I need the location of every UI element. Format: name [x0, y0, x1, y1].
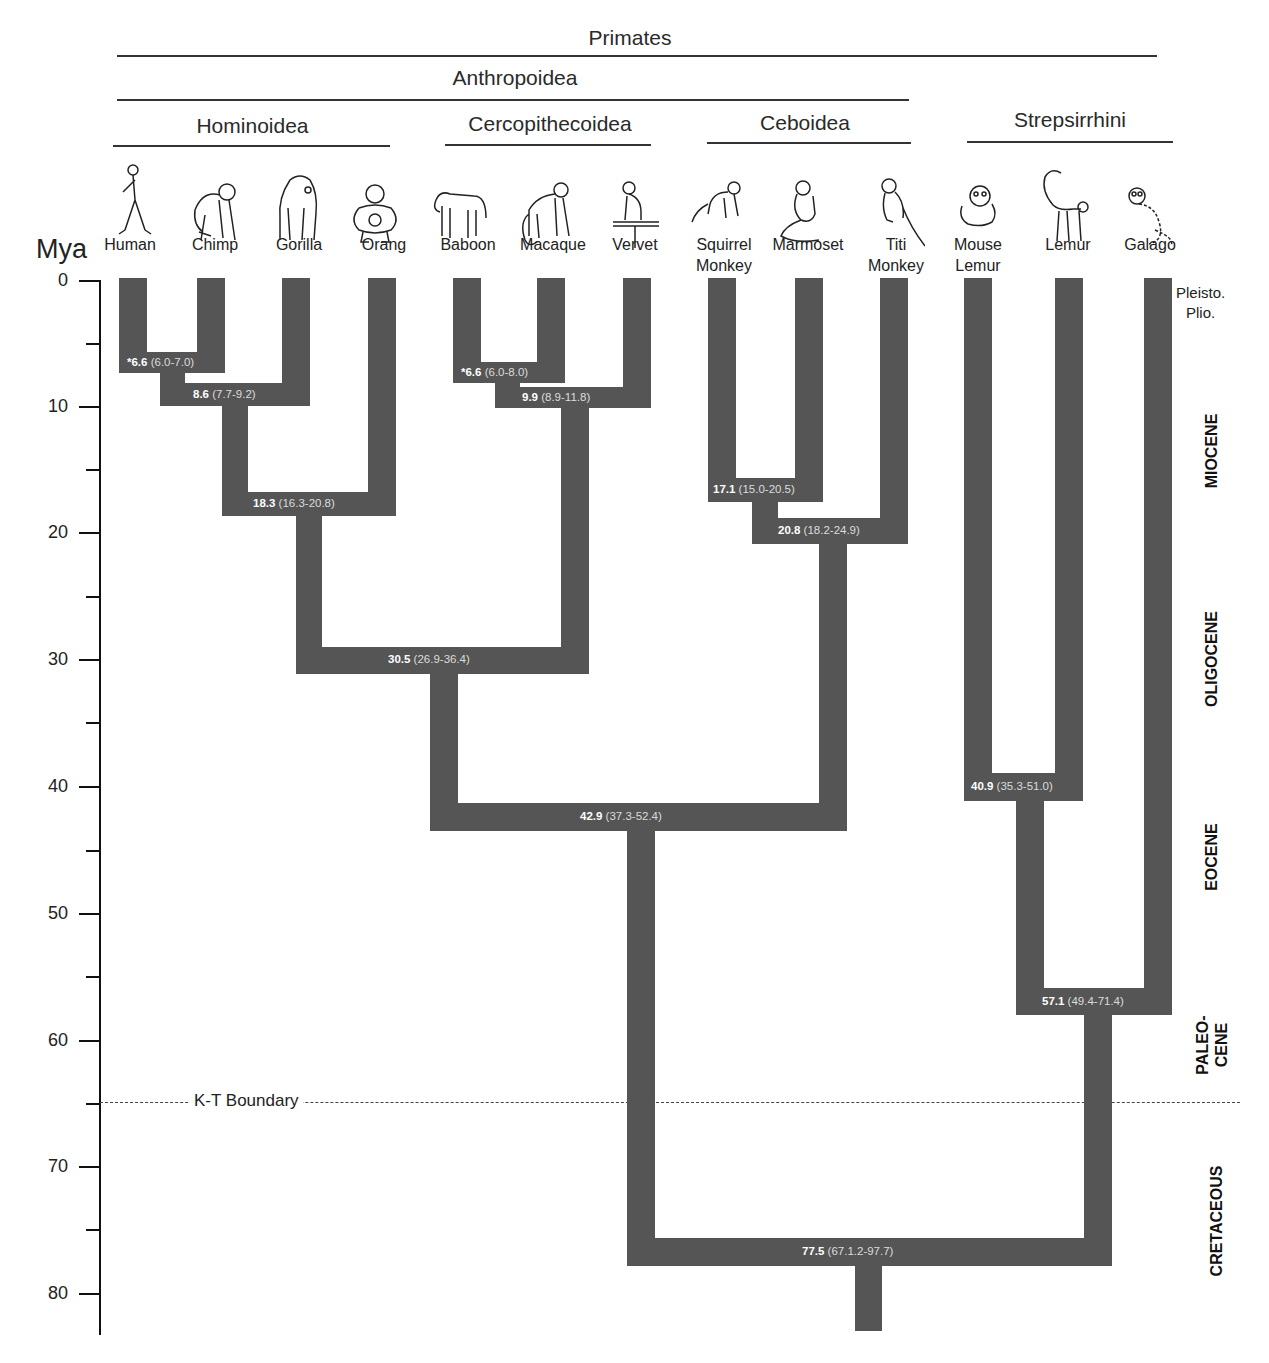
- clade-primates-line: [117, 55, 1157, 57]
- node-label-hc-gorilla: 8.6 (7.7-9.2): [193, 388, 256, 400]
- minor-tick: [86, 1103, 101, 1105]
- stem-lemuroidea: [1016, 773, 1044, 1015]
- node-label-anthropoidea: 42.9 (37.3-52.4): [580, 810, 662, 822]
- epoch-pleistocene: Pleisto.: [1176, 284, 1225, 301]
- epoch-cretaceous: CRETACEOUS: [1208, 1156, 1226, 1286]
- node-label-lemuroidea: 40.9 (35.3-51.0): [971, 780, 1053, 792]
- lemur-illustration-icon: [1035, 165, 1095, 245]
- tick-label-0: 0: [18, 270, 68, 291]
- stem-strepsirrhini: [1084, 988, 1112, 1266]
- taxon-label-titi-monkey: TitiMonkey: [856, 234, 936, 276]
- major-tick: [79, 1293, 101, 1295]
- minor-tick: [86, 722, 101, 724]
- minor-tick: [86, 1229, 101, 1231]
- taxon-label-squirrel-monkey: SquirrelMonkey: [684, 234, 764, 276]
- taxon-label-chimp: Chimp: [180, 234, 250, 255]
- branch-galago: [1144, 278, 1172, 1015]
- taxon-label-orang: Orang: [349, 234, 419, 255]
- stem-anthropoidea: [627, 803, 655, 1266]
- axis-unit-label: Mya: [36, 234, 87, 265]
- minor-tick: [86, 850, 101, 852]
- taxon-label-lemur: Lemur: [1030, 234, 1106, 255]
- node-label-catarrhini: 30.5 (26.9-36.4): [388, 653, 470, 665]
- clade-ceboidea-label: Ceboidea: [735, 111, 875, 135]
- node-label-squirrel-marmoset: 17.1 (15.0-20.5): [713, 483, 795, 495]
- minor-tick: [86, 596, 101, 598]
- branch-marmoset: [795, 278, 823, 502]
- minor-tick: [86, 469, 101, 471]
- taxon-label-macaque: Macaque: [513, 234, 593, 255]
- epoch-paleocene-line2: CENE: [1213, 1005, 1231, 1085]
- tick-label-40: 40: [18, 776, 68, 797]
- tick-label-10: 10: [18, 396, 68, 417]
- taxon-label-galago: Galago: [1112, 234, 1188, 255]
- node-label-human-chimp: *6.6 (6.0-7.0): [127, 356, 194, 368]
- clade-hominoidea-label: Hominoidea: [170, 114, 335, 138]
- taxon-label-gorilla: Gorilla: [264, 234, 334, 255]
- taxon-label-human: Human: [95, 234, 165, 255]
- kt-boundary-label: K-T Boundary: [190, 1091, 303, 1111]
- time-axis: [99, 280, 101, 1335]
- node-label-cebid-titi: 20.8 (18.2-24.9): [778, 524, 860, 536]
- branch-titi-monkey: [880, 278, 908, 544]
- node-label-papionini-vervet: 9.9 (8.9-11.8): [522, 391, 590, 403]
- taxon-label-vervet: Vervet: [600, 234, 670, 255]
- tick-label-70: 70: [18, 1156, 68, 1177]
- epoch-oligocene: OLIGOCENE: [1203, 599, 1221, 719]
- taxon-label-baboon: Baboon: [433, 234, 503, 255]
- branch-orang: [368, 278, 396, 516]
- clade-cercopithecoidea-label: Cercopithecoidea: [445, 112, 655, 136]
- major-tick: [79, 786, 101, 788]
- stem-ceboidea: [819, 518, 847, 831]
- epoch-pliocene: Plio.: [1186, 304, 1215, 321]
- major-tick: [79, 659, 101, 661]
- clade-ceboidea-line: [707, 142, 911, 144]
- clade-strepsirrhini-line: [967, 141, 1173, 143]
- branch-mouse-lemur: [964, 278, 992, 800]
- clade-anthropoidea-label: Anthropoidea: [430, 66, 600, 90]
- major-tick: [79, 532, 101, 534]
- node-label-baboon-macaque: *6.6 (6.0-8.0): [461, 366, 528, 378]
- taxon-label-marmoset: Marmoset: [763, 234, 853, 255]
- epoch-eocene: EOCENE: [1203, 812, 1221, 902]
- epoch-paleocene: PALEO- CENE: [1188, 1000, 1248, 1090]
- epoch-miocene: MIOCENE: [1203, 401, 1221, 501]
- axis-top-cap: [79, 280, 101, 282]
- tick-label-60: 60: [18, 1030, 68, 1051]
- clade-hominoidea-line: [113, 145, 390, 147]
- taxon-label-mouse-lemur: MouseLemur: [940, 234, 1016, 276]
- node-label-apes-orang: 18.3 (16.3-20.8): [253, 497, 335, 509]
- clade-primates-label: Primates: [560, 26, 700, 50]
- tick-label-30: 30: [18, 649, 68, 670]
- human-illustration-icon: [105, 160, 165, 240]
- minor-tick: [86, 343, 101, 345]
- major-tick: [79, 406, 101, 408]
- branch-lemur: [1055, 278, 1083, 800]
- node-label-strepsirrhini: 57.1 (49.4-71.4): [1042, 995, 1124, 1007]
- major-tick: [79, 1166, 101, 1168]
- clade-cercopithecoidea-line: [445, 144, 651, 146]
- major-tick: [79, 913, 101, 915]
- tick-label-80: 80: [18, 1283, 68, 1304]
- node-label-primates-root: 77.5 (67.1.2-97.7): [802, 1245, 893, 1257]
- branch-squirrel-monkey: [708, 278, 736, 502]
- tick-label-50: 50: [18, 903, 68, 924]
- clade-strepsirrhini-label: Strepsirrhini: [985, 108, 1155, 132]
- clade-anthropoidea-line: [117, 99, 909, 101]
- epoch-paleocene-line1: PALEO-: [1194, 1005, 1212, 1085]
- stem-cercopithecoidea: [561, 387, 589, 674]
- minor-tick: [86, 976, 101, 978]
- tick-label-20: 20: [18, 522, 68, 543]
- major-tick: [79, 1040, 101, 1042]
